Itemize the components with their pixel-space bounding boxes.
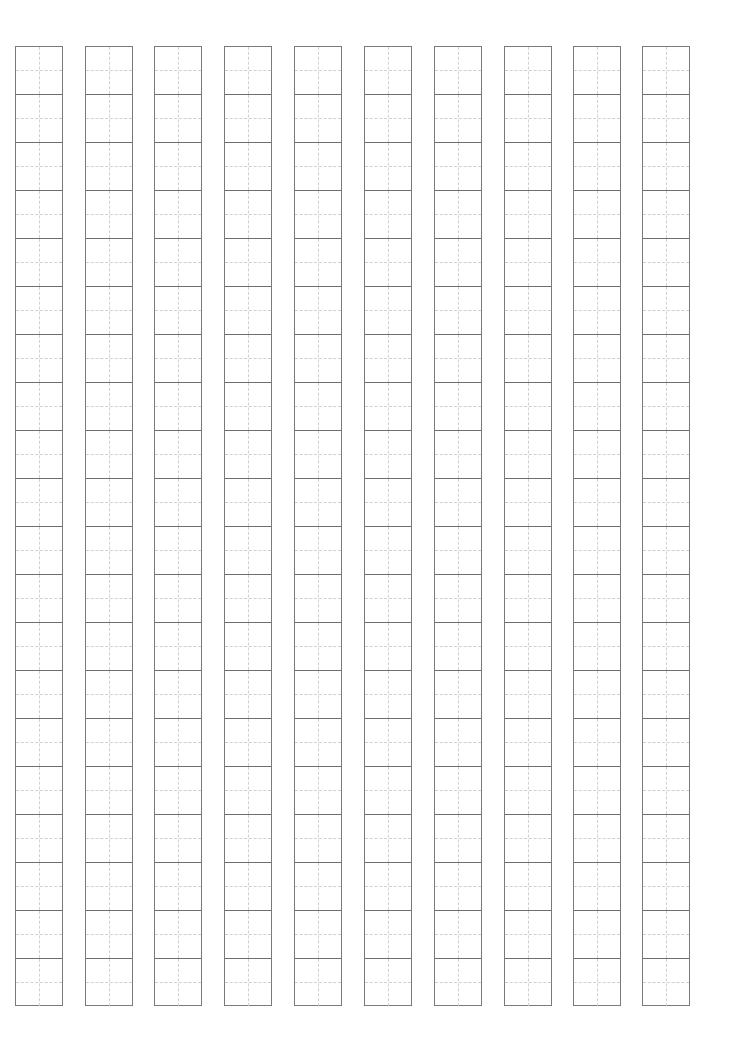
grid-cell <box>16 863 62 911</box>
grid-cell <box>643 671 689 719</box>
grid-cell <box>155 671 201 719</box>
grid-cell <box>643 191 689 239</box>
grid-cell <box>295 767 341 815</box>
grid-cell <box>643 815 689 863</box>
grid-cell <box>505 527 551 575</box>
grid-cell <box>16 383 62 431</box>
grid-cell <box>86 815 132 863</box>
grid-cell <box>643 575 689 623</box>
grid-cell <box>435 911 481 959</box>
grid-cell <box>155 287 201 335</box>
grid-cell <box>574 671 620 719</box>
grid-cell <box>295 575 341 623</box>
grid-cell <box>86 383 132 431</box>
grid-cell <box>16 623 62 671</box>
grid-cell <box>643 719 689 767</box>
grid-cell <box>155 191 201 239</box>
grid-cell <box>365 95 411 143</box>
grid-cell <box>574 911 620 959</box>
grid-cell <box>435 239 481 287</box>
grid-cell <box>225 95 271 143</box>
grid-cell <box>435 143 481 191</box>
grid-cell <box>225 239 271 287</box>
grid-cell <box>505 815 551 863</box>
grid-cell <box>225 911 271 959</box>
grid-column-4 <box>224 46 272 1006</box>
grid-cell <box>435 623 481 671</box>
grid-cell <box>643 335 689 383</box>
grid-cell <box>225 143 271 191</box>
grid-cell <box>295 335 341 383</box>
grid-cell <box>225 383 271 431</box>
grid-cell <box>295 479 341 527</box>
grid-cell <box>86 527 132 575</box>
grid-cell <box>365 479 411 527</box>
grid-cell <box>505 47 551 95</box>
grid-cell <box>505 575 551 623</box>
grid-cell <box>505 335 551 383</box>
grid-cell <box>365 911 411 959</box>
grid-cell <box>643 287 689 335</box>
grid-cell <box>435 767 481 815</box>
grid-cell <box>86 767 132 815</box>
grid-cell <box>365 863 411 911</box>
grid-cell <box>365 575 411 623</box>
grid-cell <box>295 671 341 719</box>
grid-cell <box>295 143 341 191</box>
grid-cell <box>435 383 481 431</box>
grid-cell <box>505 863 551 911</box>
grid-cell <box>225 335 271 383</box>
grid-cell <box>643 143 689 191</box>
grid-cell <box>574 335 620 383</box>
grid-cell <box>225 287 271 335</box>
grid-cell <box>435 863 481 911</box>
grid-cell <box>295 719 341 767</box>
grid-cell <box>574 767 620 815</box>
grid-column-8 <box>504 46 552 1006</box>
grid-cell <box>225 575 271 623</box>
grid-cell <box>365 527 411 575</box>
grid-cell <box>86 479 132 527</box>
grid-cell <box>365 959 411 1006</box>
grid-cell <box>16 143 62 191</box>
grid-cell <box>225 47 271 95</box>
grid-cell <box>295 911 341 959</box>
grid-cell <box>295 191 341 239</box>
grid-cell <box>365 767 411 815</box>
grid-cell <box>574 191 620 239</box>
grid-cell <box>505 959 551 1006</box>
grid-cell <box>16 335 62 383</box>
grid-cell <box>643 527 689 575</box>
grid-cell <box>86 863 132 911</box>
grid-cell <box>643 767 689 815</box>
grid-column-1 <box>15 46 63 1006</box>
grid-cell <box>16 575 62 623</box>
grid-cell <box>155 239 201 287</box>
grid-cell <box>86 719 132 767</box>
grid-column-5 <box>294 46 342 1006</box>
grid-cell <box>86 911 132 959</box>
grid-cell <box>643 95 689 143</box>
grid-cell <box>16 191 62 239</box>
grid-cell <box>435 719 481 767</box>
grid-cell <box>574 863 620 911</box>
grid-cell <box>295 815 341 863</box>
grid-cell <box>155 767 201 815</box>
grid-cell <box>574 479 620 527</box>
grid-cell <box>643 47 689 95</box>
grid-cell <box>435 287 481 335</box>
grid-cell <box>225 671 271 719</box>
grid-cell <box>505 623 551 671</box>
grid-cell <box>435 335 481 383</box>
grid-cell <box>365 671 411 719</box>
grid-cell <box>643 431 689 479</box>
grid-cell <box>86 143 132 191</box>
grid-cell <box>435 95 481 143</box>
grid-cell <box>225 719 271 767</box>
grid-cell <box>643 623 689 671</box>
grid-cell <box>505 671 551 719</box>
grid-cell <box>505 719 551 767</box>
grid-cell <box>574 383 620 431</box>
grid-cell <box>435 479 481 527</box>
grid-cell <box>295 527 341 575</box>
